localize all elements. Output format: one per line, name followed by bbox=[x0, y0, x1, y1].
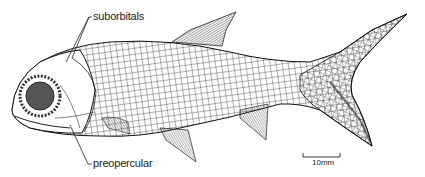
anal-fin bbox=[240, 104, 268, 140]
fish-illustration bbox=[0, 0, 425, 177]
label-suborbitals: suborbitals bbox=[93, 10, 144, 22]
scale-bar bbox=[303, 153, 340, 157]
pelvic-fin bbox=[160, 128, 196, 162]
scale-bar-label: 10mm bbox=[312, 158, 334, 167]
eye bbox=[26, 82, 54, 110]
caudal-fin bbox=[300, 14, 407, 146]
label-preopercular: preopercular bbox=[93, 157, 152, 169]
dorsal-fin bbox=[172, 12, 236, 46]
